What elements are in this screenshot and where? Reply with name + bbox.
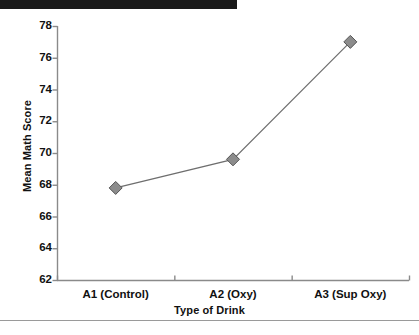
data-point-marker [109,181,122,194]
x-axis-tick-label: A1 (Control) [57,288,174,300]
x-axis-ticks [58,276,410,281]
x-axis-tick-label: A2 (Oxy) [174,288,291,300]
x-axis-tick-label: A3 (Sup Oxy) [292,288,409,300]
data-series-group [109,35,357,194]
page-divider-rule [0,320,419,321]
plot-area [0,0,419,335]
x-axis-title: Type of Drink [0,304,419,316]
y-axis-ticks [53,27,58,281]
axes-group [53,26,410,281]
line-chart-figure: Mean Math Score 626466687072747678 A1 (C… [0,0,419,335]
series-markers [109,35,357,194]
